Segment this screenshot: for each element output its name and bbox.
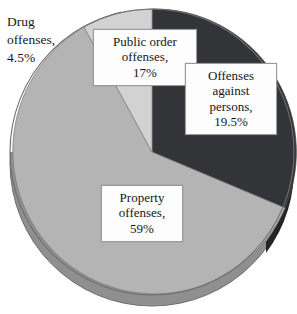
pie-label-public-order-offenses: Public order offenses, 17% [93, 29, 197, 86]
pie-label-drug-offenses: Drug offenses, 4.5% [7, 13, 55, 67]
pie-label-property-offenses-line1: Property [105, 190, 179, 205]
pie-label-offenses-against-persons: Offenses against persons, 19.5% [185, 63, 277, 135]
pie-chart-figure: · ·· · Drug [0, 0, 297, 314]
pie-label-drug-offenses-value: 4.5% [7, 49, 55, 67]
pie-label-drug-offenses-line1: Drug [7, 13, 55, 31]
pie-label-drug-offenses-line2: offenses, [7, 31, 55, 49]
pie-label-public-order-offenses-value: 17% [97, 65, 193, 80]
pie-label-offenses-against-persons-line3: persons, [189, 99, 273, 114]
pie-label-property-offenses-value: 59% [105, 221, 179, 236]
pie-label-public-order-offenses-line1: Public order [97, 34, 193, 49]
pie-label-public-order-offenses-line2: offenses, [97, 49, 193, 64]
pie-label-offenses-against-persons-line2: against [189, 83, 273, 98]
pie-label-property-offenses: Property offenses, 59% [101, 185, 183, 242]
pie-label-offenses-against-persons-value: 19.5% [189, 114, 273, 129]
pie-label-offenses-against-persons-line1: Offenses [189, 68, 273, 83]
pie-label-property-offenses-line2: offenses, [105, 205, 179, 220]
